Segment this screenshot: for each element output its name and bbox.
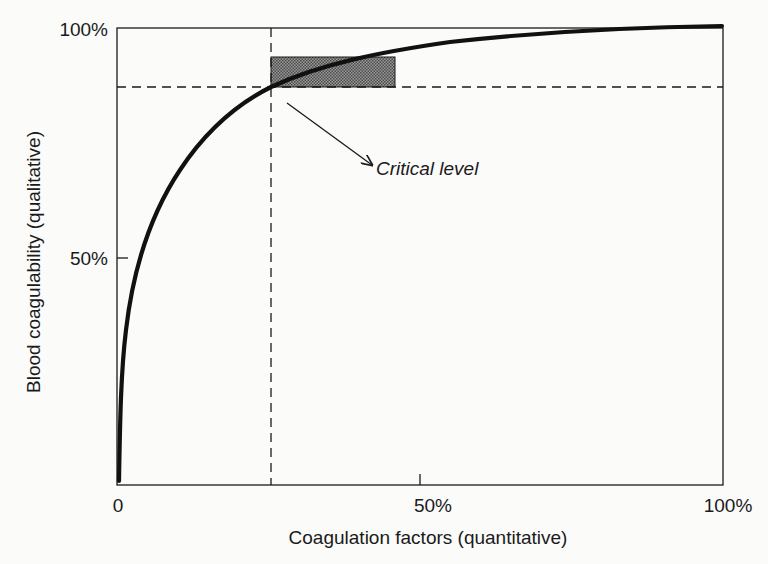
- x-tick-label-100: 100%: [704, 495, 753, 516]
- y-axis-title: Blood coagulability (qualitative): [23, 131, 44, 393]
- critical-level-arrow: [287, 103, 372, 165]
- chart-canvas: Critical level 100% 50% 0 50% 100% Coagu…: [0, 0, 768, 564]
- coagulability-curve: [119, 26, 722, 481]
- y-tick-label-50: 50%: [70, 248, 108, 269]
- shaded-region: [271, 57, 395, 87]
- plot-frame: [117, 28, 723, 485]
- x-tick-label-0: 0: [113, 495, 124, 516]
- critical-level-annotation: Critical level: [376, 158, 479, 179]
- x-tick-label-50: 50%: [414, 495, 452, 516]
- x-axis-title: Coagulation factors (quantitative): [289, 527, 568, 548]
- y-tick-label-100: 100%: [59, 19, 108, 40]
